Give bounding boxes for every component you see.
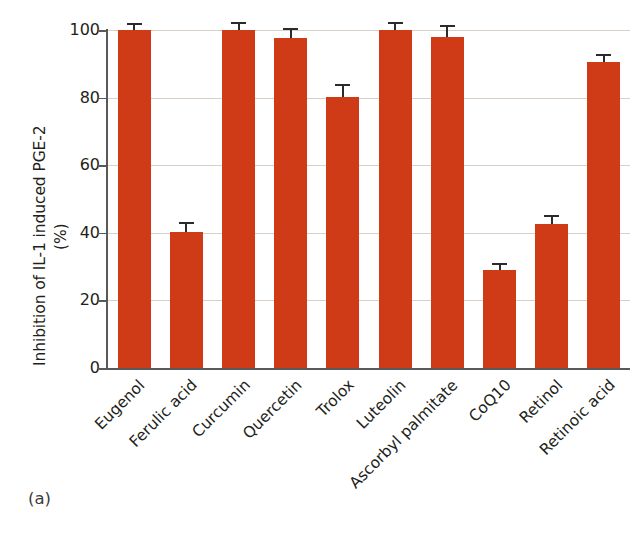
- x-axis-category-labels: EugenolFerulic acidCurcuminQuercetinTrol…: [0, 368, 643, 528]
- error-bar: [551, 217, 553, 224]
- error-bar-cap: [179, 222, 194, 224]
- error-bar-cap: [492, 263, 507, 265]
- error-bar-cap: [544, 215, 559, 217]
- bar: [431, 37, 464, 368]
- error-bar: [342, 86, 344, 96]
- y-tick-mark: [98, 98, 107, 100]
- y-axis-tick-labels: 020406080100: [58, 0, 100, 380]
- error-bar: [603, 56, 605, 62]
- y-tick-mark: [98, 165, 107, 167]
- error-bar: [394, 24, 396, 30]
- bar: [587, 62, 620, 368]
- y-axis-title-group: Inhibition of IL-1 induced PGE-2 (%): [0, 0, 60, 380]
- y-tick-label: 100: [60, 22, 100, 38]
- error-bar-cap: [231, 22, 246, 24]
- x-category-label: Retinol: [516, 376, 567, 427]
- error-bar-cap: [127, 23, 142, 25]
- bar: [170, 232, 203, 368]
- bar: [535, 224, 568, 368]
- plot-area: [108, 30, 630, 368]
- error-bar-cap: [388, 22, 403, 24]
- bar: [379, 30, 412, 368]
- error-bar-cap: [440, 25, 455, 27]
- bar: [274, 38, 307, 368]
- bar: [118, 30, 151, 368]
- y-tick-label: 60: [60, 157, 100, 173]
- y-axis-title: Inhibition of IL-1 induced PGE-2: [31, 126, 49, 367]
- y-tick-mark: [98, 30, 107, 32]
- bars-layer: [108, 30, 630, 368]
- y-tick-mark: [98, 233, 107, 235]
- x-category-label: CoQ10: [465, 376, 515, 426]
- bar: [222, 30, 255, 368]
- panel-caption: (a): [28, 489, 51, 508]
- bar: [326, 97, 359, 368]
- error-bar: [238, 24, 240, 30]
- error-bar-cap: [596, 54, 611, 56]
- error-bar-cap: [335, 84, 350, 86]
- y-tick-label: 20: [60, 292, 100, 308]
- bar: [483, 270, 516, 368]
- figure-panel-a: Inhibition of IL-1 induced PGE-2 (%) 020…: [0, 0, 643, 536]
- x-category-label: Trolox: [313, 376, 358, 421]
- error-bar: [133, 25, 135, 30]
- y-tick-label: 40: [60, 225, 100, 241]
- error-bar-cap: [283, 28, 298, 30]
- error-bar: [446, 27, 448, 36]
- error-bar: [185, 224, 187, 231]
- y-tick-label: 80: [60, 90, 100, 106]
- error-bar: [499, 265, 501, 270]
- y-tick-mark: [98, 300, 107, 302]
- error-bar: [290, 30, 292, 39]
